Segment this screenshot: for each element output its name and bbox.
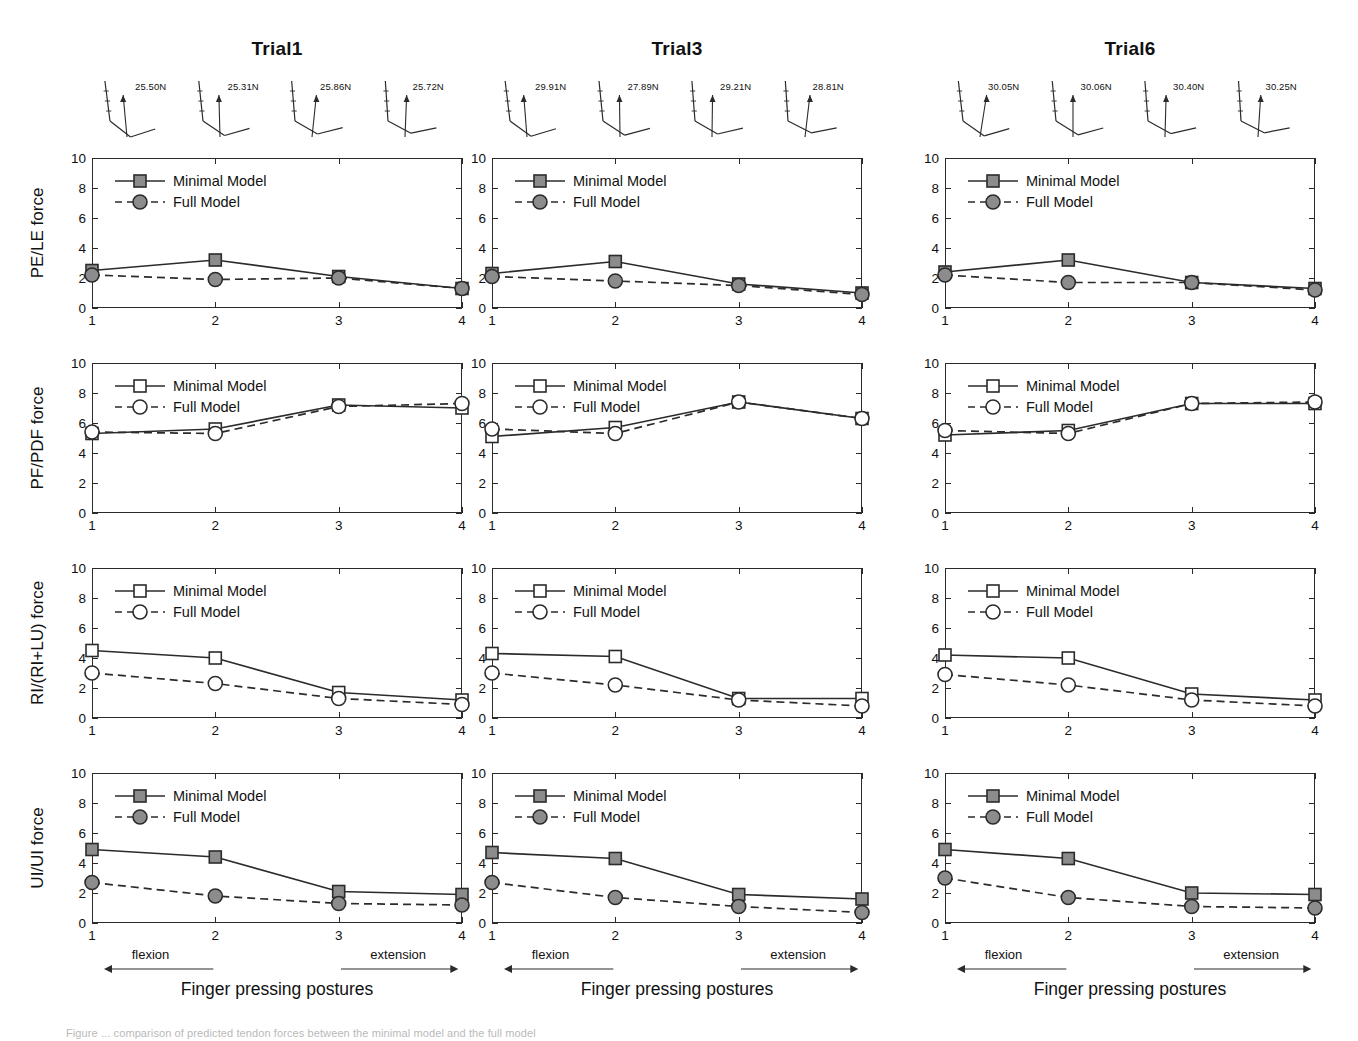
x-axis-tick-2: 2 — [612, 518, 620, 533]
data-point-marker-circle — [1185, 397, 1199, 411]
x-axis-tick-2: 2 — [212, 518, 220, 533]
force-value-label: 25.86N — [320, 81, 351, 92]
legend-swatch-minimal-icon — [967, 377, 1019, 395]
plot-panel-trial1-row1: 02468101234PE/LE forceMinimal ModelFull … — [92, 158, 462, 308]
x-axis-tick-1: 1 — [941, 723, 949, 738]
legend: Minimal ModelFull Model — [967, 580, 1119, 622]
x-axis-tick-3: 3 — [335, 928, 343, 943]
y-axis-tick-0: 0 — [78, 916, 86, 931]
legend-item-full: Full Model — [967, 396, 1119, 417]
x-tick-mark — [462, 917, 463, 923]
data-point-marker-circle — [485, 422, 499, 436]
x-axis-tick-3: 3 — [1188, 518, 1196, 533]
legend-swatch-full-icon — [514, 603, 566, 621]
y-axis-tick-8: 8 — [931, 796, 939, 811]
flexion-arrow-icon — [504, 963, 629, 975]
legend-label-minimal: Minimal Model — [173, 583, 266, 599]
x-axis-tick-3: 3 — [735, 313, 743, 328]
data-point-marker-circle — [455, 282, 469, 296]
y-axis-tick-4: 4 — [478, 856, 486, 871]
extension-label: extension — [770, 947, 826, 962]
force-value-label: 25.72N — [413, 81, 444, 92]
y-tick-mark-right — [1309, 923, 1315, 924]
legend-item-full: Full Model — [514, 806, 666, 827]
x-tick-mark-top — [862, 773, 863, 779]
data-point-marker-circle — [1185, 276, 1199, 290]
y-tick-mark — [945, 513, 951, 514]
legend-swatch-minimal-icon — [967, 787, 1019, 805]
x-tick-mark — [462, 302, 463, 308]
plot-panel-trial6-row1: 02468101234Minimal ModelFull Model — [945, 158, 1315, 308]
y-axis-tick-4: 4 — [78, 651, 86, 666]
legend-swatch-minimal-icon — [967, 582, 1019, 600]
finger-posture-diagram-1: 29.91N — [494, 75, 594, 155]
legend-swatch-full-icon — [514, 808, 566, 826]
y-axis-tick-10: 10 — [471, 766, 486, 781]
y-axis-tick-4: 4 — [478, 446, 486, 461]
plot-panel-trial1-row4: 02468101234UI/UI forceMinimal ModelFull … — [92, 773, 462, 923]
data-point-marker-circle — [938, 668, 952, 682]
legend-item-minimal: Minimal Model — [967, 785, 1119, 806]
legend: Minimal ModelFull Model — [114, 785, 266, 827]
y-axis-tick-4: 4 — [478, 241, 486, 256]
y-axis-tick-8: 8 — [478, 591, 486, 606]
y-axis-tick-0: 0 — [78, 506, 86, 521]
legend: Minimal ModelFull Model — [967, 785, 1119, 827]
x-axis-tick-3: 3 — [735, 723, 743, 738]
plot-panel-trial3-row2: 02468101234Minimal ModelFull Model — [492, 363, 862, 513]
force-value-label: 29.21N — [720, 81, 751, 92]
data-point-marker-circle — [855, 412, 869, 426]
series-line-circle — [92, 673, 462, 705]
y-tick-mark — [945, 308, 951, 309]
data-point-marker-circle — [608, 274, 622, 288]
x-axis-tick-2: 2 — [212, 313, 220, 328]
posture-strip-trial1: 25.50N25.31N25.86N25.72N — [92, 75, 462, 155]
flexion-label: flexion — [985, 947, 1023, 962]
y-axis-tick-8: 8 — [931, 181, 939, 196]
legend-item-minimal: Minimal Model — [114, 170, 266, 191]
legend-label-minimal: Minimal Model — [173, 378, 266, 394]
x-axis-tick-4: 4 — [1311, 518, 1319, 533]
series-line-circle — [492, 277, 862, 295]
legend-item-full: Full Model — [967, 601, 1119, 622]
y-axis-tick-4: 4 — [478, 651, 486, 666]
x-axis-tick-3: 3 — [735, 518, 743, 533]
x-tick-mark — [862, 507, 863, 513]
legend-label-minimal: Minimal Model — [173, 173, 266, 189]
data-point-marker-circle — [938, 424, 952, 438]
data-point-marker-square — [486, 847, 498, 859]
y-axis-tick-6: 6 — [931, 211, 939, 226]
data-point-marker-square — [86, 645, 98, 657]
x-axis-tick-1: 1 — [488, 313, 496, 328]
y-axis-tick-10: 10 — [924, 356, 939, 371]
y-axis-tick-8: 8 — [78, 386, 86, 401]
x-tick-mark — [462, 507, 463, 513]
finger-posture-diagram-4: 30.25N — [1225, 75, 1325, 155]
finger-posture-diagram-3: 29.21N — [679, 75, 779, 155]
flexion-arrow-icon — [104, 963, 229, 975]
legend-swatch-minimal-icon — [967, 172, 1019, 190]
x-axis-tick-3: 3 — [335, 313, 343, 328]
legend-item-minimal: Minimal Model — [114, 580, 266, 601]
force-value-label: 27.89N — [628, 81, 659, 92]
force-value-label: 30.25N — [1266, 81, 1297, 92]
y-axis-tick-2: 2 — [931, 681, 939, 696]
flexion-label: flexion — [132, 947, 170, 962]
legend-swatch-minimal-icon — [114, 172, 166, 190]
legend-label-minimal: Minimal Model — [573, 173, 666, 189]
y-axis-tick-6: 6 — [478, 621, 486, 636]
x-tick-mark-top — [1315, 363, 1316, 369]
series-line-square — [492, 853, 862, 900]
x-axis-tick-3: 3 — [335, 723, 343, 738]
data-point-marker-square — [486, 648, 498, 660]
x-axis-tick-2: 2 — [1065, 928, 1073, 943]
legend-item-minimal: Minimal Model — [967, 170, 1119, 191]
series-line-circle — [945, 275, 1315, 290]
legend: Minimal ModelFull Model — [114, 375, 266, 417]
y-tick-mark-right — [456, 718, 462, 719]
data-point-marker-circle — [485, 270, 499, 284]
y-axis-tick-6: 6 — [478, 826, 486, 841]
x-axis-tick-3: 3 — [1188, 723, 1196, 738]
x-axis-tick-4: 4 — [858, 313, 866, 328]
